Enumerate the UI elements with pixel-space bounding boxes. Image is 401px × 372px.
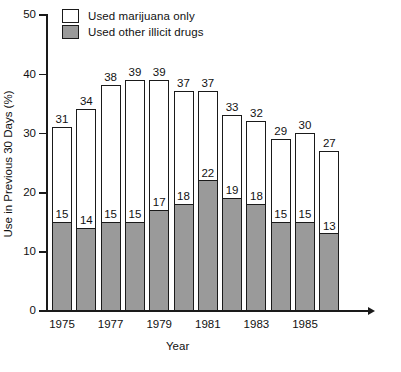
bar-segment-other-illicit-drugs xyxy=(246,204,266,311)
y-tick-mark xyxy=(39,14,46,16)
bar-1980: 3718 xyxy=(174,91,194,310)
bar-total-label: 39 xyxy=(128,66,141,78)
bar-segment-other-illicit-drugs xyxy=(149,210,169,311)
bar-1986: 2713 xyxy=(319,151,339,311)
y-tick-label: 40 xyxy=(23,68,36,80)
bar-total-label: 38 xyxy=(104,71,117,83)
bar-total-label: 33 xyxy=(226,101,239,113)
bar-series-group: 3115341438153915391737183722331932182915… xyxy=(46,14,356,310)
bar-gray-label: 17 xyxy=(152,196,166,208)
x-tick-label-1981: 1981 xyxy=(195,318,221,330)
bar-gray-label: 15 xyxy=(104,208,118,220)
bar-total-label: 32 xyxy=(250,107,263,119)
bar-gray-label: 14 xyxy=(79,214,93,226)
bar-segment-other-illicit-drugs xyxy=(52,222,72,311)
bar-gray-label: 15 xyxy=(128,208,142,220)
bar-segment-other-illicit-drugs xyxy=(295,222,315,311)
x-axis-title: Year xyxy=(166,340,189,352)
bar-gray-label: 15 xyxy=(55,208,69,220)
x-tick-label-1979: 1979 xyxy=(146,318,172,330)
bar-total-label: 27 xyxy=(323,137,336,149)
bar-1982: 3319 xyxy=(222,115,242,310)
y-tick-mark xyxy=(39,133,46,135)
bar-segment-other-illicit-drugs xyxy=(101,222,121,311)
x-axis-arrow-icon xyxy=(368,307,375,315)
bar-gray-label: 15 xyxy=(274,208,288,220)
bar-segment-other-illicit-drugs xyxy=(125,222,145,311)
plot-area: 01020304050 Use in Previous 30 Days (%) … xyxy=(46,14,356,312)
y-tick-label: 50 xyxy=(23,8,36,20)
y-axis-title: Use in Previous 30 Days (%) xyxy=(2,91,14,238)
bar-1977: 3815 xyxy=(101,85,121,310)
bar-total-label: 31 xyxy=(56,113,69,125)
bar-chart: Used marijuana only Used other illicit d… xyxy=(0,0,401,372)
bar-gray-label: 13 xyxy=(322,220,336,232)
y-tick-mark xyxy=(39,251,46,253)
bar-total-label: 29 xyxy=(274,125,287,137)
bar-segment-other-illicit-drugs xyxy=(271,222,291,311)
x-tick-label-1985: 1985 xyxy=(292,318,318,330)
bar-segment-other-illicit-drugs xyxy=(76,228,96,311)
bar-1975: 3115 xyxy=(52,127,72,311)
bar-total-label: 30 xyxy=(299,119,312,131)
x-axis-line xyxy=(46,310,370,312)
y-tick-label: 10 xyxy=(23,245,36,257)
bar-total-label: 34 xyxy=(80,95,93,107)
bar-1984: 2915 xyxy=(271,139,291,311)
x-tick-label-1975: 1975 xyxy=(49,318,75,330)
bar-1983: 3218 xyxy=(246,121,266,310)
bar-segment-other-illicit-drugs xyxy=(174,204,194,311)
bar-total-label: 37 xyxy=(201,77,214,89)
bar-1985: 3015 xyxy=(295,133,315,311)
x-tick-label-1977: 1977 xyxy=(98,318,124,330)
bar-1978: 3915 xyxy=(125,80,145,311)
bar-1981: 3722 xyxy=(198,91,218,310)
bar-gray-label: 18 xyxy=(249,190,263,202)
bar-gray-label: 15 xyxy=(298,208,312,220)
y-tick-mark xyxy=(39,74,46,76)
bar-total-label: 39 xyxy=(153,66,166,78)
bar-segment-other-illicit-drugs xyxy=(319,233,339,310)
y-tick-label: 20 xyxy=(23,186,36,198)
x-tick-label-1983: 1983 xyxy=(244,318,270,330)
bar-gray-label: 19 xyxy=(225,184,239,196)
bar-segment-other-illicit-drugs xyxy=(222,198,242,310)
bar-total-label: 37 xyxy=(177,77,190,89)
bar-1976: 3414 xyxy=(76,109,96,310)
y-tick-label: 0 xyxy=(30,304,36,316)
bar-1979: 3917 xyxy=(149,80,169,311)
bar-gray-label: 18 xyxy=(177,190,191,202)
y-tick-mark xyxy=(39,192,46,194)
bar-segment-other-illicit-drugs xyxy=(198,180,218,310)
y-tick-mark xyxy=(39,310,46,312)
y-tick-label: 30 xyxy=(23,127,36,139)
bar-gray-label: 22 xyxy=(201,167,215,179)
